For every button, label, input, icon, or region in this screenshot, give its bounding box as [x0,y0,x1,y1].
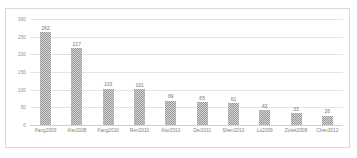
bar[interactable] [197,102,208,125]
xaxis-tick-label: Ren2010 [124,128,155,133]
xaxis-tick-label: Fang2010 [93,128,124,133]
bar-group: 61 [218,19,249,125]
bar[interactable] [259,110,270,125]
bar[interactable] [165,101,176,125]
plot-area: 300250200150100500 262217103101696561423… [30,19,343,125]
xaxis-tick-label: Fang2009 [30,128,61,133]
bar-value-label: 217 [73,42,81,47]
bar-group: 217 [61,19,92,125]
xaxis-labels: Fang2009Aler2008Fang2010Ren2010Aior2010D… [30,128,343,142]
xaxis-tick-label: Der2011 [186,128,217,133]
bar-value-label: 42 [262,104,268,109]
bar-group: 65 [186,19,217,125]
bar-group: 26 [312,19,343,125]
bar[interactable] [103,89,114,125]
bar[interactable] [134,89,145,125]
bar-value-label: 61 [231,97,237,102]
xaxis-tick-label: Aior2010 [155,128,186,133]
bar-group: 262 [30,19,61,125]
bar-group: 69 [155,19,186,125]
bar[interactable] [40,32,51,125]
bar[interactable] [228,103,239,125]
xaxis-tick-label: Zolek2008 [280,128,311,133]
xaxis-tick-label: Chen2012 [312,128,343,133]
bar-group: 42 [249,19,280,125]
bar-group: 103 [93,19,124,125]
bar-value-label: 26 [325,109,331,114]
yaxis-tick-label: 0 [23,123,26,128]
yaxis-tick-label: 300 [18,17,26,22]
bar-value-label: 262 [41,26,49,31]
bar-value-label: 65 [199,96,205,101]
bar[interactable] [291,113,302,125]
bar-series: 262217103101696561423326 [30,19,343,125]
chart-frame: 300250200150100500 262217103101696561423… [5,8,350,148]
yaxis-tick-label: 150 [18,70,26,75]
xaxis-tick-label: Shen2010 [218,128,249,133]
xaxis-tick-label: Lo2009 [249,128,280,133]
bar-group: 101 [124,19,155,125]
bar-group: 33 [280,19,311,125]
bar[interactable] [322,116,333,125]
bar-value-label: 33 [293,107,299,112]
yaxis-tick-label: 50 [21,105,26,110]
yaxis-tick-label: 200 [18,52,26,57]
yaxis-tick-label: 250 [18,34,26,39]
yaxis-tick-label: 100 [18,87,26,92]
bar-value-label: 69 [168,94,174,99]
bar-value-label: 103 [104,82,112,87]
xaxis-tick-label: Aler2008 [61,128,92,133]
bar[interactable] [71,48,82,125]
gridline [30,125,343,126]
bar-value-label: 101 [135,83,143,88]
